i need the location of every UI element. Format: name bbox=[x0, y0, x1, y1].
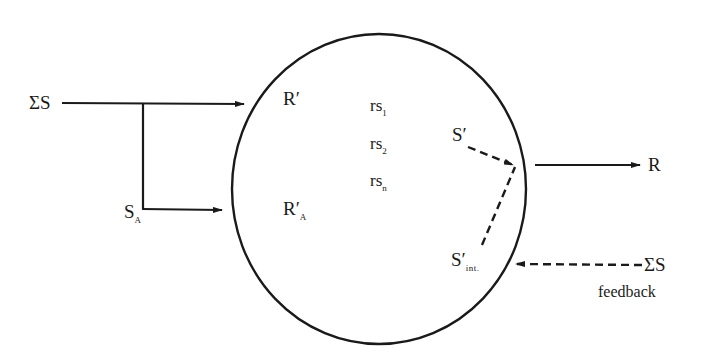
rs-2-label: rs2 bbox=[370, 135, 387, 152]
stimulus-prime-dashed-arrow bbox=[468, 147, 513, 165]
feedback-dashed-arrow bbox=[516, 264, 642, 265]
diagram-canvas bbox=[0, 0, 705, 356]
stimulus-prime-int-label: S′int. bbox=[451, 250, 480, 269]
sr-diagram: ΣS SA R′ R′A rs1 rs2 rsn S′ S′int. R ΣS … bbox=[0, 0, 705, 356]
total-stimulus-label: ΣS bbox=[29, 93, 51, 112]
rs-1-label: rs1 bbox=[370, 97, 387, 114]
rs-n-label: rsn bbox=[370, 172, 387, 189]
selected-stimulus-label: SA bbox=[124, 202, 142, 221]
feedback-stimulus-label: ΣS bbox=[644, 255, 666, 274]
selected-stimulus-arrow bbox=[142, 209, 222, 210]
total-stimulus-arrow bbox=[62, 103, 244, 104]
response-prime-a-label: R′A bbox=[283, 199, 307, 218]
response-label: R bbox=[648, 155, 661, 174]
response-prime-label: R′ bbox=[283, 89, 300, 108]
feedback-label: feedback bbox=[598, 284, 656, 300]
stimulus-prime-label: S′ bbox=[452, 125, 467, 144]
stimulus-prime-int-dashed-line bbox=[482, 167, 515, 245]
